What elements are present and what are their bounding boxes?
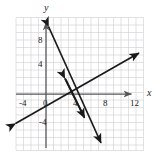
x-tick-label-12: 12 [130,99,139,108]
x-axis-name: x [147,88,151,98]
x-tick-label-neg4: -4 [19,99,27,108]
y-tick-label-8: 8 [38,36,43,45]
grid-lines [16,18,144,151]
x-tick-label-4: 4 [73,99,78,108]
x-tick-label-8: 8 [103,99,108,108]
y-tick-label-neg4: -4 [39,118,47,127]
coordinate-graph-figure: -4 0 4 8 12 4 8 -4 y x [0,0,158,160]
graph-canvas [0,0,158,160]
series-ascending-line [16,53,140,124]
y-axis-name: y [44,3,48,13]
y-tick-label-4: 4 [38,60,43,69]
x-tick-label-0: 0 [43,99,48,108]
